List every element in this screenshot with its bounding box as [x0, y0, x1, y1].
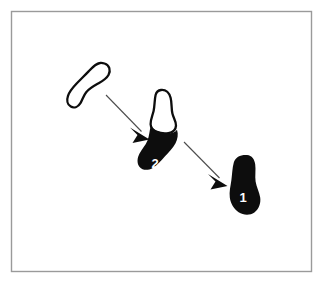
- blob-half-filled-2-label: 2: [151, 156, 158, 171]
- blob-filled-1-label: 1: [239, 190, 246, 205]
- shape-sequence-figure: 2 1: [0, 0, 324, 289]
- figure-root: 2 1: [0, 0, 324, 289]
